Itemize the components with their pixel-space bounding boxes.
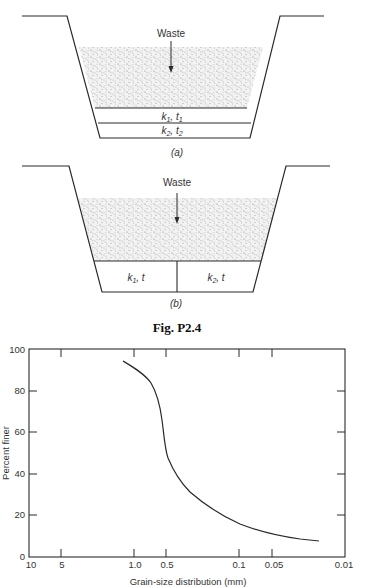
svg-text:0.1: 0.1	[232, 559, 245, 570]
svg-text:20: 20	[14, 509, 25, 520]
svg-text:100: 100	[9, 344, 25, 355]
svg-text:1.0: 1.0	[128, 559, 141, 570]
svg-text:0.5: 0.5	[160, 559, 173, 570]
svg-text:5: 5	[59, 559, 64, 570]
svg-text:10: 10	[26, 559, 37, 570]
x-tick-labels: 10 5 1.0 0.5 0.1 0.05 0.01	[26, 559, 354, 570]
figure-canvas: Waste k1, t1 k2, t2 (a) Waste k1, t k2, …	[0, 0, 367, 587]
waste-fill-b	[78, 198, 278, 261]
svg-text:60: 60	[14, 426, 25, 437]
right-zone-label-b: k2, t	[207, 272, 225, 284]
svg-text:40: 40	[14, 468, 25, 479]
left-zone-label-b: k1, t	[127, 272, 145, 284]
grain-size-curve	[123, 361, 319, 541]
x-axis-label: Grain-size distribution (mm)	[130, 576, 247, 587]
svg-text:80: 80	[14, 385, 25, 396]
y-tick-labels: 0 20 40 60 80 100	[9, 344, 25, 562]
figure-b-trench: Waste k1, t k2, t (b)	[22, 166, 330, 309]
plot-frame	[29, 349, 345, 557]
figure-a-trench: Waste k1, t1 k2, t2 (a)	[22, 16, 324, 158]
svg-text:0.05: 0.05	[265, 559, 284, 570]
svg-text:0.01: 0.01	[335, 559, 354, 570]
layer2-label-a: k2, t2	[161, 125, 182, 137]
waste-label-a: Waste	[157, 28, 185, 39]
svg-text:0: 0	[20, 551, 25, 562]
y-axis-label: Percent finer	[0, 426, 11, 480]
grain-size-chart: 0 20 40 60 80 100 10 5 1.0 0.5 0.1 0.05 …	[0, 344, 353, 587]
waste-label-b: Waste	[163, 177, 191, 188]
layer1-label-a: k1, t1	[161, 111, 182, 123]
figure-caption: Fig. P2.4	[153, 320, 202, 335]
caption-a: (a)	[171, 147, 183, 158]
caption-b: (b)	[170, 298, 182, 309]
y-ticks	[29, 391, 345, 515]
